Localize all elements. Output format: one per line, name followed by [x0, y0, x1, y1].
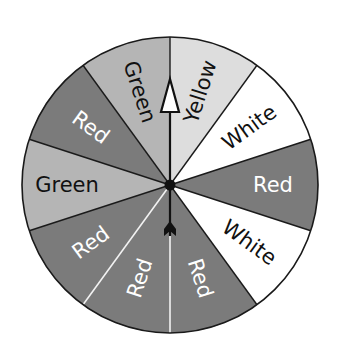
spinner: YellowWhiteRedWhiteRedRedRedGreenRedGree… [0, 0, 339, 357]
section-label: Red [253, 173, 293, 197]
spinner-hub [165, 180, 176, 191]
section-label: Green [35, 173, 99, 197]
